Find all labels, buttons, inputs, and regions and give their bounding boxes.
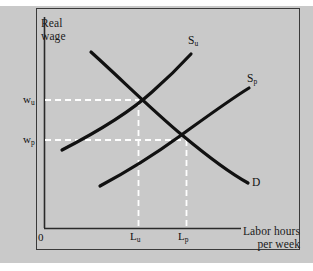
curve-supply-union: [62, 54, 191, 150]
y-axis-label-line1: Real: [41, 17, 62, 29]
x-axis-label-line2: per week: [238, 238, 300, 251]
curve-demand: [91, 52, 248, 183]
y-tick-label-wu: wu: [23, 93, 35, 105]
x-tick-lp-sub: p: [185, 235, 189, 244]
origin-label: 0: [38, 231, 44, 243]
curve-label-supply-union: Su: [188, 34, 198, 46]
labor-market-figure: Real wage Labor hours per week Su Sp D w…: [0, 0, 313, 271]
x-axis-label: Labor hours per week: [238, 225, 300, 250]
y-tick-wp-base: w: [23, 133, 31, 145]
x-tick-lu-sub: u: [137, 235, 141, 244]
x-tick-label-lu: Lu: [130, 230, 140, 242]
curve-label-sp-sub: p: [253, 77, 257, 86]
y-axis-label-line2: wage: [41, 30, 66, 43]
x-tick-lu-base: L: [130, 230, 137, 242]
y-tick-label-wp: wp: [23, 133, 35, 145]
y-tick-wu-sub: u: [31, 98, 35, 107]
y-tick-wu-base: w: [23, 93, 31, 105]
x-tick-label-lp: Lp: [178, 230, 188, 242]
y-tick-wp-sub: p: [31, 138, 35, 147]
x-tick-lp-base: L: [178, 230, 185, 242]
curve-label-su-sub: u: [194, 39, 198, 48]
x-axis-label-line1: Labor hours: [243, 225, 300, 237]
y-axis-label: Real wage: [41, 17, 66, 42]
curve-label-demand: D: [252, 176, 260, 188]
curve-label-d-base: D: [252, 176, 260, 188]
curve-label-supply-private: Sp: [247, 72, 257, 84]
